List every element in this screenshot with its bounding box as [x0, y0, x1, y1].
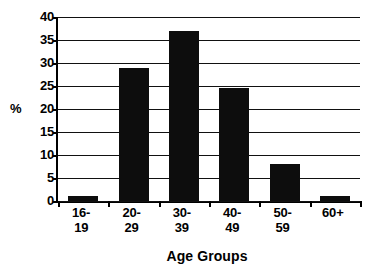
x-axis-tick-label-line: 60+ [308, 205, 358, 220]
gridline [58, 86, 360, 87]
y-axis-tickmark [53, 155, 58, 157]
y-axis-tick-label: 15 [28, 125, 54, 138]
x-axis-tick-label-line: 49 [207, 220, 257, 235]
y-axis-tickmark [53, 86, 58, 88]
y-axis-tickmark [53, 109, 58, 111]
y-axis-tick-label: 10 [28, 148, 54, 161]
x-axis-tick-label-line: 50- [257, 205, 307, 220]
gridline [58, 132, 360, 133]
y-axis-tickmark [53, 63, 58, 65]
bar [169, 31, 199, 201]
x-axis-tick-label-line: 59 [257, 220, 307, 235]
y-axis-tickmark [53, 17, 58, 19]
y-axis-tickmark [53, 178, 58, 180]
gridline [58, 63, 360, 64]
y-axis-tick-label: 20 [28, 102, 54, 115]
x-axis-tick-label: 30-39 [157, 205, 207, 235]
x-axis-tick-label-line: 39 [157, 220, 207, 235]
y-axis-tick-labels: 4035302520151050 [14, 0, 54, 276]
bar [219, 88, 249, 201]
y-axis-tick-label: 0 [28, 194, 54, 207]
x-axis-tick-label-line: 40- [207, 205, 257, 220]
x-axis-tick-label: 20-29 [106, 205, 156, 235]
y-axis-tickmark [53, 40, 58, 42]
bar [119, 68, 149, 201]
x-axis-tick-label-line: 16- [56, 205, 106, 220]
y-axis-tick-label: 35 [28, 33, 54, 46]
y-axis-tick-label: 5 [28, 171, 54, 184]
gridline [58, 155, 360, 156]
gridline [58, 178, 360, 179]
gridline [58, 109, 360, 110]
bar [68, 196, 98, 201]
y-axis-tick-label: 40 [28, 10, 54, 23]
x-axis-tick-label-line: 29 [106, 220, 156, 235]
x-axis-title: Age Groups [56, 248, 358, 264]
plot-area [56, 17, 360, 203]
bar [270, 164, 300, 201]
x-axis-tick-labels: 16-1920-2930-3940-4950-5960+ [56, 205, 358, 247]
x-axis-tick-label-line: 30- [157, 205, 207, 220]
x-axis-tick-label: 40-49 [207, 205, 257, 235]
gridline [58, 40, 360, 41]
bar [320, 196, 350, 201]
gridline [58, 17, 360, 18]
x-axis-tick-label: 50-59 [257, 205, 307, 235]
x-axis-tick-label: 60+ [308, 205, 358, 220]
y-axis-tick-label: 30 [28, 56, 54, 69]
y-axis-tick-label: 25 [28, 79, 54, 92]
x-axis-tickmark [360, 201, 362, 207]
y-axis-tickmark [53, 132, 58, 134]
x-axis-tick-label: 16-19 [56, 205, 106, 235]
x-axis-tick-label-line: 19 [56, 220, 106, 235]
bar-chart: % 4035302520151050 16-1920-2930-3940-495… [0, 0, 373, 276]
x-axis-tick-label-line: 20- [106, 205, 156, 220]
